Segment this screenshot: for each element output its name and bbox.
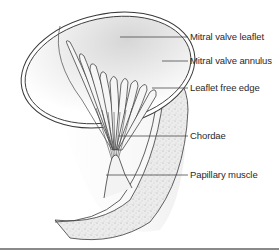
label-leaflet-free-edge: Leaflet free edge — [190, 82, 260, 93]
mitral-valve-diagram: Mitral valve leaflet Mitral valve annulu… — [0, 0, 279, 252]
bottom-divider — [0, 248, 279, 250]
label-chordae: Chordae — [190, 130, 226, 141]
label-mitral-valve-leaflet: Mitral valve leaflet — [190, 31, 264, 42]
label-papillary-muscle: Papillary muscle — [190, 169, 258, 180]
label-mitral-valve-annulus: Mitral valve annulus — [190, 55, 272, 66]
